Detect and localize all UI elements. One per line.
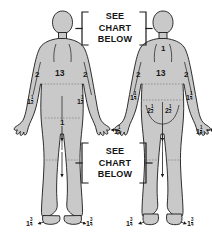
front-right-forearm-fraction: 12 — [31, 96, 34, 105]
front-left-forearm-denominator: 2 — [81, 101, 84, 105]
front-left-foot-value: 134 — [86, 218, 92, 227]
burn-chart-diagram: .bfill { fill:#c9c9c9; stroke:#1a1a1a; s… — [0, 0, 212, 235]
back-left-hand-fraction: 14 — [200, 126, 203, 135]
back-right-hand-fraction: 14 — [118, 126, 121, 135]
head-note-line2: CHART — [92, 23, 138, 35]
back-right-buttock-fraction: 12 — [151, 105, 154, 114]
front-genitalia-value: 1 — [60, 119, 64, 127]
head-chart-note: SEE CHART BELOW — [92, 11, 138, 46]
back-right-foot-value: 134 — [126, 218, 132, 227]
back-trunk-value: 13 — [156, 69, 165, 78]
back-left-hand-denominator: 4 — [200, 131, 203, 135]
front-left-foot-fraction: 34 — [90, 218, 93, 227]
front-left-upper-arm-value: 2 — [83, 71, 87, 79]
legs-chart-note: SEE CHART BELOW — [92, 146, 138, 181]
back-left-buttock-fraction: 12 — [169, 105, 172, 114]
head-note-line3: BELOW — [92, 34, 138, 46]
back-left-hand-value: 114 — [196, 126, 202, 135]
front-right-forearm-value: 112 — [27, 96, 33, 105]
front-right-foot-value: 134 — [26, 218, 32, 227]
back-left-upper-arm-value: 2 — [184, 71, 188, 79]
legs-note-line2: CHART — [92, 158, 138, 170]
front-right-upper-arm-value: 2 — [35, 71, 39, 79]
back-left-forearm-denominator: 4 — [190, 97, 193, 101]
front-trunk-value: 13 — [55, 69, 64, 78]
back-right-forearm-denominator: 4 — [134, 97, 137, 101]
back-right-hand-value: 114 — [114, 126, 120, 135]
back-neck-value: 1 — [161, 45, 165, 53]
back-right-buttock-value: 212 — [147, 105, 153, 114]
back-left-foot-value: 134 — [187, 218, 193, 227]
back-left-buttock-denominator: 2 — [169, 110, 172, 114]
back-right-foot-denominator: 4 — [130, 223, 133, 227]
legs-note-line3: BELOW — [92, 169, 138, 181]
back-left-buttock-value: 212 — [165, 105, 171, 114]
front-left-forearm-value: 112 — [77, 96, 83, 105]
back-left-foot-denominator: 4 — [191, 223, 194, 227]
front-right-foot-fraction: 34 — [30, 218, 33, 227]
legs-note-line1: SEE — [92, 146, 138, 158]
front-right-forearm-denominator: 2 — [31, 101, 34, 105]
back-left-forearm-value: 114 — [186, 92, 192, 101]
back-right-buttock-denominator: 2 — [151, 110, 154, 114]
back-left-foot-fraction: 34 — [191, 218, 194, 227]
back-right-hand-denominator: 4 — [118, 131, 121, 135]
head-note-line1: SEE — [92, 11, 138, 23]
front-left-forearm-fraction: 12 — [81, 96, 84, 105]
back-right-forearm-fraction: 14 — [134, 92, 137, 101]
back-left-forearm-fraction: 14 — [190, 92, 193, 101]
back-right-forearm-value: 114 — [130, 92, 136, 101]
front-right-foot-denominator: 4 — [30, 223, 33, 227]
back-right-foot-fraction: 34 — [130, 218, 133, 227]
front-left-foot-denominator: 4 — [90, 223, 93, 227]
back-right-upper-arm-value: 2 — [136, 71, 140, 79]
